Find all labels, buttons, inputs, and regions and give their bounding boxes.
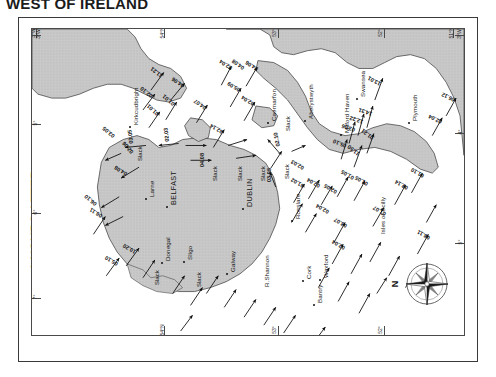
graticule-tick-label: 7° (32, 295, 38, 300)
place-label: Larne (148, 181, 155, 197)
graticule-tick-label: 53° (271, 326, 277, 334)
place-marker-dot (183, 261, 185, 263)
graticule-tick-mark (278, 29, 279, 38)
slack-water-label: Slack (284, 164, 290, 179)
graticule-tick-label: 54°N (158, 28, 164, 39)
place-marker-dot (302, 280, 304, 282)
place-marker-dot (291, 220, 293, 222)
place-label: Caernarfon (270, 89, 277, 121)
graticule-tick-label: 5° (458, 240, 464, 245)
place-label: Plymouth (411, 94, 418, 121)
ireland-landmass (97, 136, 279, 292)
place-label: Wexford (322, 254, 329, 278)
place-marker-dot (226, 273, 228, 275)
compass-north-label: N (390, 281, 400, 288)
graticule-tick-label: 52° (377, 29, 383, 37)
tidal-rate-label: 02.03 (336, 335, 343, 336)
place-label: Bantry (316, 285, 323, 303)
page-title: WEST OF IRELAND (6, 0, 336, 13)
graticule-tick-label: 51°N (448, 28, 454, 39)
place-label: Galway (229, 251, 236, 272)
graticule-tick-label: 4° (458, 130, 464, 135)
place-marker-dot (319, 279, 321, 281)
place-marker-dot (129, 126, 131, 128)
graticule-tick-label: 53° (271, 29, 277, 37)
graticule-tick-label: 5° (32, 120, 38, 125)
slack-water-label: Slack (196, 272, 202, 287)
slack-water-label: Slack (285, 116, 291, 131)
place-label: Swansea (359, 71, 366, 97)
place-marker-dot (340, 134, 342, 136)
graticule-tick-label: 6° (32, 209, 38, 214)
place-label: Kirkcudbright (132, 88, 139, 125)
slack-water-label: Slack (212, 166, 218, 181)
slack-water-label: Slack (237, 166, 243, 181)
place-marker-dot (242, 208, 244, 210)
graticule-tick-mark (384, 326, 385, 335)
graticule-tick-mark (384, 29, 385, 38)
place-label: Cork (305, 266, 312, 279)
place-marker-dot (267, 122, 269, 124)
place-marker-dot (161, 262, 163, 264)
place-label: Aberystwyth (307, 84, 314, 119)
graticule-tick-label: 3°W (35, 29, 41, 39)
place-label: Sligo (186, 246, 193, 260)
place-marker-dot (304, 120, 306, 122)
tidal-rate-label: 03.05 (266, 168, 272, 182)
place-label: DUBLIN (245, 178, 254, 207)
isle-of-man-landmass (185, 118, 211, 142)
slack-water-label: Slack (137, 146, 143, 161)
graticule-tick-label: 52° (377, 326, 383, 334)
place-label: Rosslare (294, 194, 301, 219)
scotland-landmass (32, 29, 187, 102)
place-marker-dot (166, 206, 168, 208)
place-marker-dot (356, 98, 358, 100)
graticule-tick-label: 3°W (455, 29, 461, 39)
chart-outer-frame: 6 HOURS AFTER HW DOVER (18, 17, 478, 362)
place-label: Donegal (164, 237, 171, 261)
place-marker-dot (313, 304, 315, 306)
compass-rose-icon (404, 261, 450, 307)
map-graticule-frame: KirkcudbrightLarneBELFASTDUBLINCaernarfo… (31, 28, 465, 336)
place-marker-dot (145, 198, 147, 200)
graticule-tick-label: 54°N (158, 324, 164, 335)
place-marker-dot (408, 122, 410, 124)
slack-water-label: Slack (154, 270, 160, 285)
place-label: BELFAST (169, 171, 178, 205)
tidal-rate-label: 04.08 (199, 153, 205, 167)
graticule-tick-mark (278, 326, 279, 335)
place-label: R.Shannon (263, 255, 270, 287)
